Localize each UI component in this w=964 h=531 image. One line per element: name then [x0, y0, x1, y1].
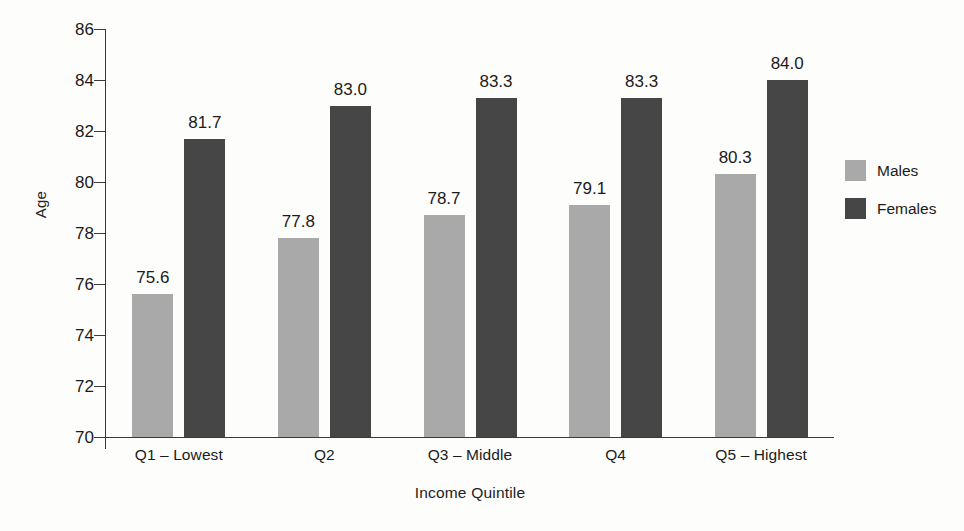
y-tick-mark	[94, 182, 105, 183]
bar-females	[476, 98, 517, 437]
bar-males	[424, 215, 465, 437]
bar-value-label: 77.8	[264, 213, 333, 230]
bar-females	[621, 98, 662, 437]
bar-males	[569, 205, 610, 437]
bar-value-label: 83.0	[316, 81, 385, 98]
legend-item-females: Females	[845, 198, 960, 219]
bar-value-label: 75.6	[118, 269, 187, 286]
bar-value-label: 83.3	[462, 73, 531, 90]
legend: Males Females	[845, 160, 960, 236]
x-axis-line	[105, 437, 834, 438]
y-tick-label: 72	[48, 378, 94, 395]
bar-males	[278, 238, 319, 437]
y-tick-label: 80	[48, 174, 94, 191]
x-tick-label: Q1 – Lowest	[106, 446, 252, 464]
x-tick-label: Q2	[252, 446, 398, 464]
y-tick-label: 74	[48, 327, 94, 344]
legend-label-females: Females	[877, 200, 936, 218]
bar-females	[767, 80, 808, 437]
y-tick-mark	[94, 80, 105, 81]
x-axis-title: Income Quintile	[106, 484, 834, 502]
bar-females	[330, 106, 371, 438]
y-tick-label: 70	[48, 429, 94, 446]
y-tick-label: 84	[48, 72, 94, 89]
bar-females	[184, 139, 225, 437]
bar-chart: Age 868482807876747270 75.681.777.883.07…	[0, 0, 964, 531]
bar-males	[715, 174, 756, 437]
y-tick-label: 82	[48, 123, 94, 140]
x-tick-label: Q5 – Highest	[688, 446, 834, 464]
bar-value-label: 81.7	[170, 114, 239, 131]
bar-value-label: 83.3	[607, 73, 676, 90]
y-tick-mark	[94, 335, 105, 336]
legend-item-males: Males	[845, 160, 960, 181]
legend-swatch-females-icon	[845, 198, 866, 219]
bar-value-label: 84.0	[753, 55, 822, 72]
y-tick-mark	[94, 284, 105, 285]
y-axis-tick-labels: 868482807876747270	[44, 0, 94, 531]
y-tick-mark	[94, 233, 105, 234]
x-tick-label: Q4	[543, 446, 689, 464]
y-tick-mark	[94, 437, 105, 438]
legend-swatch-males-icon	[845, 160, 866, 181]
y-tick-mark	[94, 386, 105, 387]
bar-value-label: 78.7	[410, 190, 479, 207]
bar-value-label: 79.1	[555, 180, 624, 197]
y-tick-mark	[94, 131, 105, 132]
bar-males	[132, 294, 173, 437]
plot-area: 75.681.777.883.078.783.379.183.380.384.0	[106, 29, 834, 437]
legend-label-males: Males	[877, 162, 918, 180]
bar-value-label: 80.3	[701, 149, 770, 166]
y-tick-label: 76	[48, 276, 94, 293]
x-tick-label: Q3 – Middle	[397, 446, 543, 464]
y-tick-mark	[94, 29, 105, 30]
y-tick-label: 86	[48, 21, 94, 38]
y-tick-label: 78	[48, 225, 94, 242]
